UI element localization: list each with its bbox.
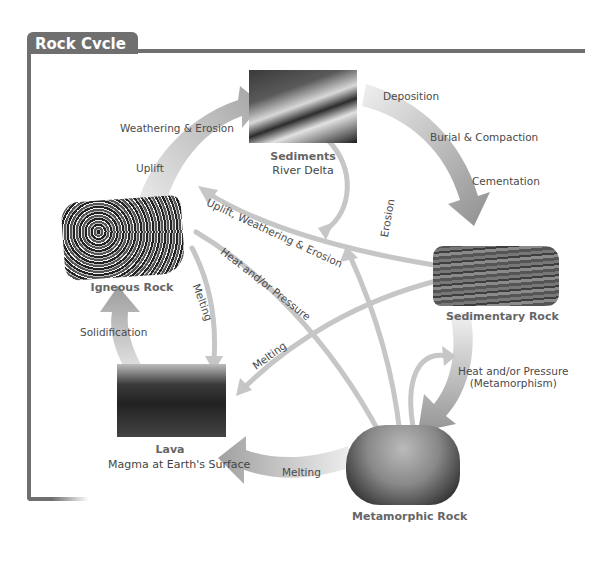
- igneous-rock-image: [60, 195, 185, 281]
- sediments-river-delta-photo: [249, 70, 357, 143]
- metamorphic-rock-image: [346, 425, 460, 505]
- lava-subtitle: Magma at Earth's Surface: [108, 458, 238, 471]
- thin-arrowheads: [198, 186, 456, 444]
- label-burial-compaction: Burial & Compaction: [430, 131, 538, 143]
- label-melting-bottom: Melting: [282, 466, 321, 478]
- sediments-subtitle: River Delta: [266, 164, 340, 177]
- lava-title: Lava: [150, 443, 190, 456]
- label-cementation: Cementation: [472, 175, 540, 187]
- sedimentary-rock-image: [433, 246, 559, 306]
- igneous-rock-title: Igneous Rock: [84, 281, 180, 294]
- label-solidification: Solidification: [80, 326, 147, 338]
- sediments-title: Sediments: [270, 150, 336, 163]
- label-weathering-erosion: Weathering & Erosion: [120, 122, 234, 134]
- label-heat-pressure-metamorphism: Heat and/or Pressure (Metamorphism): [458, 365, 568, 389]
- label-deposition: Deposition: [383, 90, 439, 102]
- arrow-sediments-to-sedimentary: [362, 84, 490, 226]
- arrow-metamorphic-to-sediments: [350, 256, 400, 434]
- label-uplift: Uplift: [136, 162, 164, 174]
- lava-flow-photo: [117, 364, 226, 437]
- thin-arrows: [192, 140, 448, 434]
- metamorphic-rock-title: Metamorphic Rock: [352, 510, 462, 523]
- sedimentary-rock-title: Sedimentary Rock: [446, 310, 556, 323]
